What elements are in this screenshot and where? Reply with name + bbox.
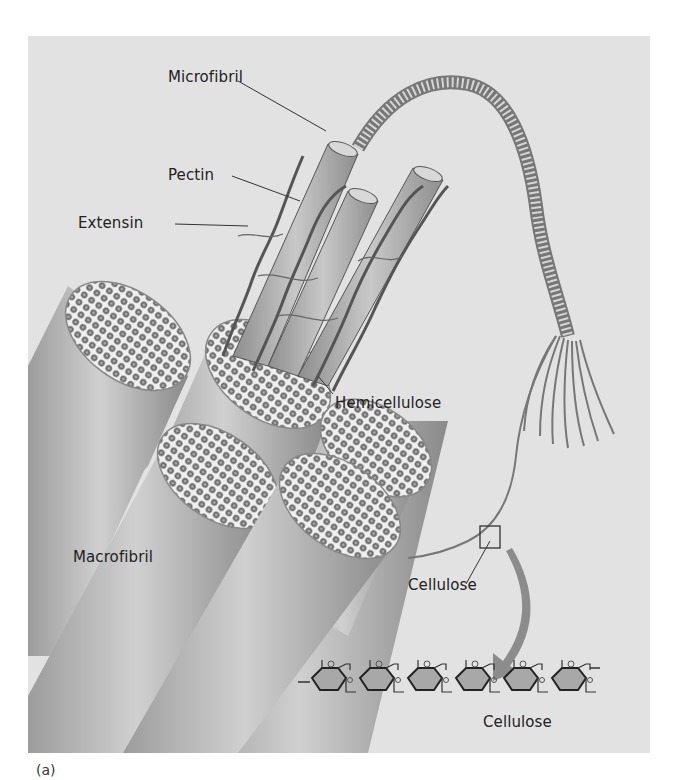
label-extensin: Extensin: [78, 214, 143, 232]
figure-caption-marker: (a): [36, 762, 56, 778]
cellulose-highlight-box: [480, 526, 500, 548]
label-microfibril: Microfibril: [168, 68, 243, 86]
microfibrils: [223, 138, 448, 391]
label-cellulose-strand: Cellulose: [408, 576, 477, 594]
label-macrofibril: Macrofibril: [73, 548, 153, 566]
label-cellulose-molecule: Cellulose: [483, 713, 552, 731]
label-pectin: Pectin: [168, 166, 214, 184]
figure-panel: Microfibril Pectin Extensin Hemicellulos…: [28, 36, 650, 753]
label-hemicellulose: Hemicellulose: [335, 394, 441, 412]
